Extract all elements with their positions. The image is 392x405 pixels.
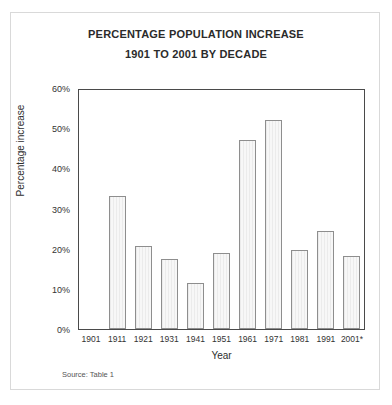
y-axis-tick-30: 30%	[52, 205, 70, 215]
bar-slot	[234, 90, 260, 329]
x-axis-tick-1931: 1931	[156, 334, 182, 344]
x-axis-tick-labels: 1901191119211931194119511961197119811991…	[78, 334, 365, 344]
bar-slot	[157, 90, 183, 329]
y-axis-tick-40: 40%	[52, 164, 70, 174]
bar-1931	[161, 259, 178, 329]
plot-area	[78, 89, 365, 330]
bar-slot	[286, 90, 312, 329]
bar-1921	[135, 246, 152, 329]
bar-slot	[209, 90, 235, 329]
bar-slot	[79, 90, 105, 329]
bars-layer	[79, 90, 364, 329]
bar-1971	[265, 120, 282, 329]
x-axis-tick-1961: 1961	[235, 334, 261, 344]
bar-2001	[343, 256, 360, 329]
x-axis-tick-1981: 1981	[287, 334, 313, 344]
y-axis-tick-labels: 0%10%20%30%40%50%60%	[36, 89, 74, 330]
y-axis-tick-0: 0%	[57, 325, 70, 335]
x-axis-tick-1911: 1911	[104, 334, 130, 344]
x-axis-tick-1921: 1921	[130, 334, 156, 344]
x-axis-tick-1971: 1971	[261, 334, 287, 344]
y-axis-tick-50: 50%	[52, 124, 70, 134]
x-axis-tick-1901: 1901	[78, 334, 104, 344]
bar-slot	[183, 90, 209, 329]
y-axis-tick-60: 60%	[52, 84, 70, 94]
x-axis-tick-1991: 1991	[313, 334, 339, 344]
chart-title: PERCENTAGE POPULATION INCREASE	[0, 28, 392, 40]
bar-1981	[291, 250, 308, 329]
y-axis-tick-10: 10%	[52, 285, 70, 295]
bar-1961	[239, 140, 256, 329]
bar-slot	[131, 90, 157, 329]
bar-slot	[338, 90, 364, 329]
bar-1911	[109, 196, 126, 329]
x-axis-title: Year	[78, 350, 365, 361]
bar-slot	[260, 90, 286, 329]
y-axis-title: Percentage increase	[15, 91, 26, 211]
bar-slot	[312, 90, 338, 329]
x-axis-tick-1941: 1941	[182, 334, 208, 344]
y-axis-tick-20: 20%	[52, 245, 70, 255]
x-axis-tick-2001: 2001*	[339, 334, 365, 344]
bar-1991	[317, 231, 334, 329]
bar-1941	[187, 283, 204, 329]
x-axis-tick-1951: 1951	[208, 334, 234, 344]
bar-slot	[105, 90, 131, 329]
source-note: Source: Table 1	[62, 370, 114, 379]
bar-1951	[213, 253, 230, 329]
chart-subtitle: 1901 TO 2001 BY DECADE	[0, 48, 392, 60]
